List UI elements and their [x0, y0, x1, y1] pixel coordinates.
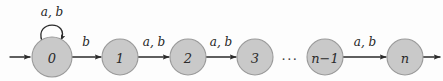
state-label-2: 2 — [183, 51, 192, 66]
transition-label-2-to-3: a, b — [210, 35, 232, 49]
state-label-0: 0 — [48, 51, 56, 66]
self-loop-label: a, b — [41, 5, 63, 19]
ellipsis-separator: ··· — [282, 52, 299, 67]
state-label-n: n — [401, 51, 409, 66]
state-label-3: 3 — [251, 51, 259, 66]
transition-label-0-to-1: b — [82, 35, 90, 49]
state-label-n-minus-1: n−1 — [311, 51, 339, 66]
transition-label-1-to-2: a, b — [143, 35, 165, 49]
transition-label-n-minus-1-to-n: a, b — [354, 35, 376, 49]
state-label-1: 1 — [116, 51, 124, 66]
automaton-diagram: 0 1 2 3 n−1 n ··· a, b b a, b a, b a, b — [0, 0, 443, 81]
